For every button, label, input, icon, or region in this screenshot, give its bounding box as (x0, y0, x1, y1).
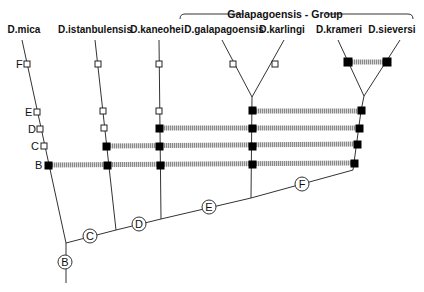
svg-text:C: C (86, 230, 94, 242)
node-e: E (202, 200, 216, 214)
stage-label-e: E (25, 106, 32, 118)
species-label-sieversi: D.sieversi (368, 24, 415, 35)
svg-text:D: D (135, 218, 143, 230)
species-labels: D.mica D.istanbulensis D.kaneohei D.gala… (8, 24, 416, 35)
group-label: Galapagoensis - Group (227, 8, 343, 20)
species-label-krameri: D.krameri (316, 24, 362, 35)
species-label-kaneohei: D.kaneohei (130, 24, 184, 35)
svg-text:E: E (205, 201, 212, 213)
stage-label-d: D (28, 123, 36, 135)
stage-label-b: B (35, 159, 42, 171)
node-f: F (295, 177, 309, 191)
phylogenetic-tree: Galapagoensis - Group D.mica D.istanbule… (0, 0, 424, 292)
node-c: C (83, 229, 97, 243)
species-label-karlingi: D.karlingi (259, 24, 305, 35)
species-label-istanbulensis: D.istanbulensis (58, 24, 132, 35)
svg-text:F: F (299, 178, 306, 190)
node-d: D (132, 217, 146, 231)
group-bracket: Galapagoensis - Group (180, 8, 413, 20)
stage-label-c: C (31, 140, 39, 152)
svg-text:B: B (61, 256, 68, 268)
stage-label-f: F (16, 58, 23, 70)
internal-nodes: B C D E F (58, 177, 309, 269)
species-label-mica: D.mica (8, 24, 41, 35)
node-b: B (58, 255, 72, 269)
species-label-galapagoensis: D.galapagoensis (184, 24, 264, 35)
